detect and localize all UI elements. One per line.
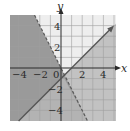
y-tick-neg4: −4: [48, 105, 63, 116]
inequality-graph: y x −4 −2 0 2 4 4 2 −2 −4: [0, 0, 130, 131]
x-axis-label: x: [121, 62, 128, 75]
y-axis-label: y: [56, 0, 64, 13]
y-tick-neg2: −2: [48, 84, 63, 95]
x-tick-neg4: −4: [12, 69, 27, 80]
x-tick-4: 4: [100, 69, 106, 80]
x-tick-2: 2: [79, 69, 85, 80]
y-tick-4: 4: [54, 21, 60, 32]
y-tick-2: 2: [54, 42, 60, 53]
origin-label: 0: [53, 69, 59, 80]
x-tick-neg2: −2: [33, 69, 48, 80]
